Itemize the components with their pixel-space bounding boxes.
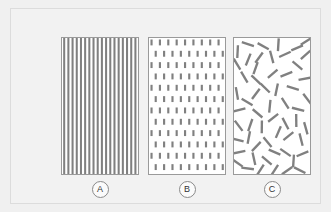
figure-frame: A B C [10, 8, 321, 204]
panel-a-pattern [62, 38, 138, 174]
panel-label-a: A [61, 181, 139, 198]
panel-label-b-circle: B [179, 181, 196, 198]
panel-label-c-text: C [269, 185, 276, 194]
panel-b [148, 37, 226, 175]
panel-label-b: B [148, 181, 226, 198]
panel-label-b-text: B [184, 185, 190, 194]
panel-b-pattern [149, 38, 225, 174]
panel-label-a-circle: A [92, 181, 109, 198]
panel-c [233, 37, 311, 175]
panel-label-c-circle: C [264, 181, 281, 198]
panel-label-c: C [233, 181, 311, 198]
panel-label-a-text: A [97, 185, 103, 194]
panel-a [61, 37, 139, 175]
figure-root: A B C [0, 0, 331, 212]
panel-c-pattern [234, 38, 310, 174]
